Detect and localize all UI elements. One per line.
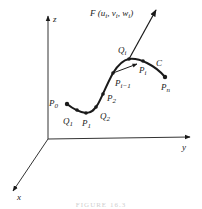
x-axis-label: x <box>16 192 21 202</box>
force-label: F (ui, vi, wi) <box>89 8 133 20</box>
point-q2 <box>94 105 98 109</box>
label-pi: Pi <box>138 65 147 77</box>
curve-label: C <box>156 58 163 68</box>
z-axis-label: z <box>52 14 57 24</box>
label-q1: Q1 <box>63 116 73 128</box>
label-p1: P1 <box>81 118 91 130</box>
figure-caption: FIGURE 16.3 <box>76 201 126 209</box>
y-axis <box>48 137 190 139</box>
label-p0: P0 <box>48 98 59 110</box>
point-p1 <box>84 111 88 115</box>
label-qi: Qi <box>118 45 127 57</box>
point-qi <box>127 57 131 61</box>
point-p2 <box>101 92 105 96</box>
point-q1 <box>75 108 79 112</box>
y-axis-label: y <box>181 142 186 152</box>
label-q2: Q2 <box>100 111 111 123</box>
point-pi-1 <box>111 71 115 75</box>
point-labels: P0 Q1 P1 Q2 P2 Pi−1 Qi Pi Pn C <box>48 45 171 130</box>
point-p0 <box>65 102 69 106</box>
label-pn: Pn <box>160 82 171 94</box>
curve-diagram: z y x F (ui, vi, wi) P0 Q1 P1 Q2 P2 Pi−1… <box>0 0 202 209</box>
point-pi <box>141 59 145 63</box>
label-pi-1: Pi−1 <box>114 78 131 90</box>
point-pn <box>163 75 167 79</box>
axes: z y x <box>13 14 190 202</box>
label-p2: P2 <box>106 93 117 105</box>
x-axis <box>13 139 48 191</box>
